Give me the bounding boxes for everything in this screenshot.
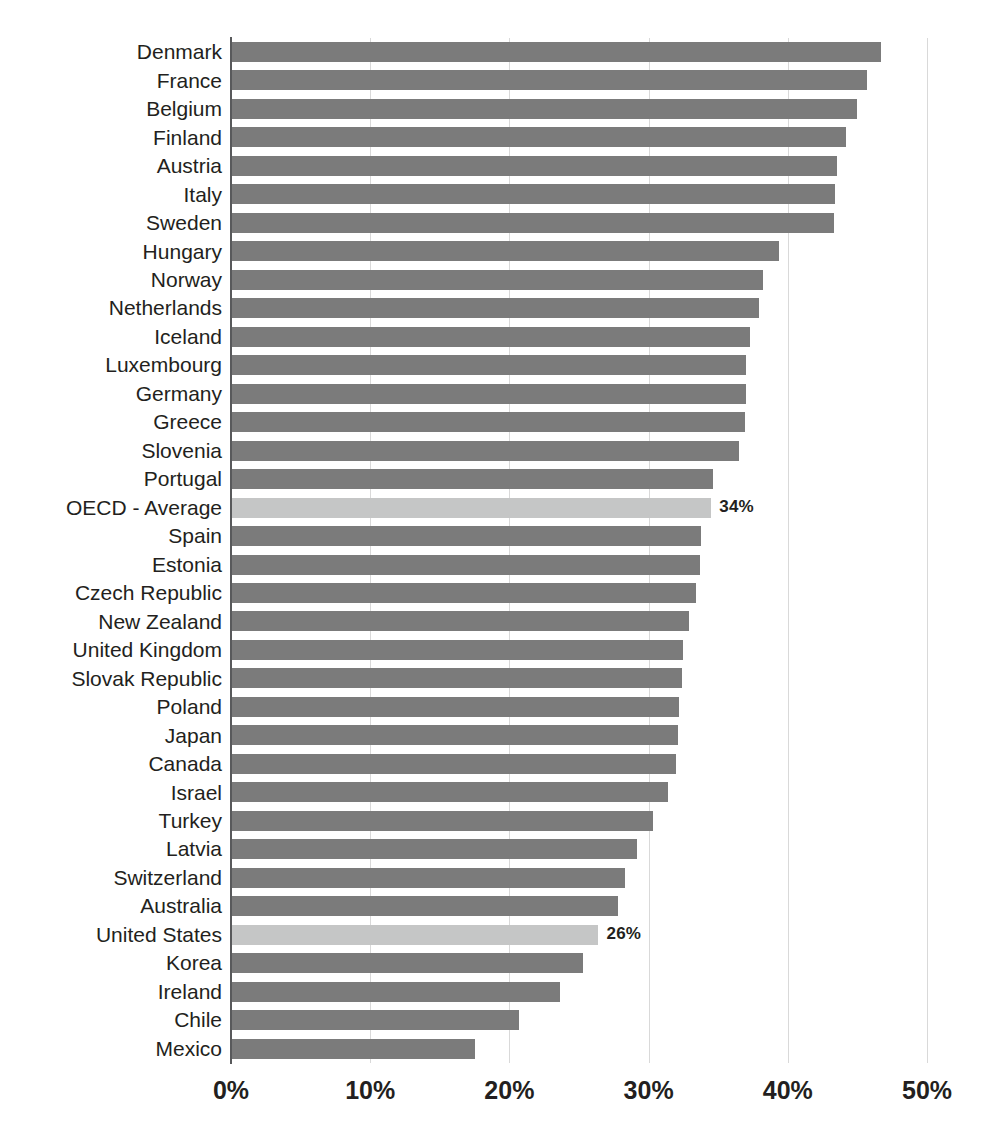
bar-oecd-average bbox=[231, 498, 711, 518]
bar-slovak-republic bbox=[231, 668, 682, 688]
category-label: Chile bbox=[0, 1009, 222, 1031]
bar-value-label: 26% bbox=[606, 924, 641, 944]
bar-row bbox=[231, 949, 927, 977]
category-label: United Kingdom bbox=[0, 639, 222, 661]
bar-value-label: 34% bbox=[719, 497, 754, 517]
category-label: Czech Republic bbox=[0, 582, 222, 604]
bar-united-kingdom bbox=[231, 640, 683, 660]
bar-germany bbox=[231, 384, 746, 404]
bar-luxembourg bbox=[231, 355, 746, 375]
category-label: Netherlands bbox=[0, 297, 222, 319]
bar-row bbox=[231, 152, 927, 180]
bar-row bbox=[231, 266, 927, 294]
bar-row bbox=[231, 1006, 927, 1034]
bar-chile bbox=[231, 1010, 519, 1030]
category-label: Japan bbox=[0, 725, 222, 747]
bar-row bbox=[231, 522, 927, 550]
bar-row bbox=[231, 294, 927, 322]
category-label: New Zealand bbox=[0, 611, 222, 633]
plot-area: 34%26% bbox=[231, 38, 927, 1063]
category-label: Sweden bbox=[0, 212, 222, 234]
x-tick-label: 20% bbox=[484, 1076, 534, 1105]
bar-row: 34% bbox=[231, 494, 927, 522]
bar-row bbox=[231, 237, 927, 265]
category-label: Slovak Republic bbox=[0, 668, 222, 690]
bar-czech-republic bbox=[231, 583, 696, 603]
bar-row bbox=[231, 123, 927, 151]
bar-row: 26% bbox=[231, 921, 927, 949]
bar-row bbox=[231, 607, 927, 635]
bar-row bbox=[231, 1035, 927, 1063]
bar-norway bbox=[231, 270, 763, 290]
category-label: Switzerland bbox=[0, 867, 222, 889]
bar-finland bbox=[231, 127, 846, 147]
bar-poland bbox=[231, 697, 679, 717]
bar-row bbox=[231, 721, 927, 749]
category-label: France bbox=[0, 70, 222, 92]
bar-sweden bbox=[231, 213, 834, 233]
bar-row bbox=[231, 323, 927, 351]
bar-row bbox=[231, 807, 927, 835]
category-label: Greece bbox=[0, 411, 222, 433]
x-tick-label: 0% bbox=[213, 1076, 249, 1105]
bar-estonia bbox=[231, 555, 700, 575]
bar-row bbox=[231, 209, 927, 237]
bar-row bbox=[231, 978, 927, 1006]
bar-austria bbox=[231, 156, 837, 176]
category-label: Korea bbox=[0, 952, 222, 974]
category-label: Hungary bbox=[0, 241, 222, 263]
bar-row bbox=[231, 892, 927, 920]
category-axis-labels: DenmarkFranceBelgiumFinlandAustriaItalyS… bbox=[0, 38, 222, 1063]
category-label: Israel bbox=[0, 782, 222, 804]
bar-ireland bbox=[231, 982, 560, 1002]
category-label: Poland bbox=[0, 696, 222, 718]
category-label: Italy bbox=[0, 184, 222, 206]
bar-row bbox=[231, 551, 927, 579]
bar-iceland bbox=[231, 327, 750, 347]
category-label: Denmark bbox=[0, 41, 222, 63]
category-label: United States bbox=[0, 924, 222, 946]
category-label: Norway bbox=[0, 269, 222, 291]
category-label: Austria bbox=[0, 155, 222, 177]
bar-spain bbox=[231, 526, 701, 546]
category-label: OECD - Average bbox=[0, 497, 222, 519]
category-label: Ireland bbox=[0, 981, 222, 1003]
bar-netherlands bbox=[231, 298, 759, 318]
bar-australia bbox=[231, 896, 618, 916]
y-axis-line bbox=[230, 37, 232, 1064]
bar-row bbox=[231, 835, 927, 863]
category-label: Latvia bbox=[0, 838, 222, 860]
gridline-50% bbox=[927, 38, 928, 1063]
bar-greece bbox=[231, 412, 745, 432]
bar-row bbox=[231, 437, 927, 465]
category-label: Estonia bbox=[0, 554, 222, 576]
bar-portugal bbox=[231, 469, 713, 489]
x-tick-label: 50% bbox=[902, 1076, 952, 1105]
bar-row bbox=[231, 351, 927, 379]
bar-canada bbox=[231, 754, 676, 774]
bar-row bbox=[231, 180, 927, 208]
bar-row bbox=[231, 38, 927, 66]
bar-israel bbox=[231, 782, 668, 802]
bar-row bbox=[231, 778, 927, 806]
x-tick-label: 30% bbox=[624, 1076, 674, 1105]
x-tick-label: 10% bbox=[345, 1076, 395, 1105]
bar-switzerland bbox=[231, 868, 625, 888]
bar-row bbox=[231, 636, 927, 664]
bar-mexico bbox=[231, 1039, 475, 1059]
category-label: Canada bbox=[0, 753, 222, 775]
category-label: Luxembourg bbox=[0, 354, 222, 376]
bar-row bbox=[231, 95, 927, 123]
bar-latvia bbox=[231, 839, 637, 859]
bar-denmark bbox=[231, 42, 881, 62]
bar-chart: 34%26% DenmarkFranceBelgiumFinlandAustri… bbox=[0, 0, 982, 1139]
bar-row bbox=[231, 750, 927, 778]
bar-hungary bbox=[231, 241, 779, 261]
bar-japan bbox=[231, 725, 678, 745]
category-label: Australia bbox=[0, 895, 222, 917]
category-label: Iceland bbox=[0, 326, 222, 348]
bar-turkey bbox=[231, 811, 653, 831]
bar-new-zealand bbox=[231, 611, 689, 631]
bar-belgium bbox=[231, 99, 857, 119]
category-label: Turkey bbox=[0, 810, 222, 832]
